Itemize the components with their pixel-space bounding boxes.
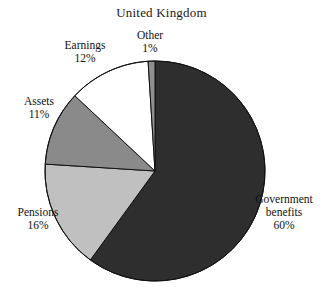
pie-label-pensions: Pensions 16% — [2, 206, 74, 232]
pie-chart-figure: United Kingdom Other 1% Earnings 12% Ass… — [0, 0, 323, 294]
pie-label-earnings: Earnings 12% — [49, 39, 121, 65]
pie-label-assets-value: 11% — [8, 108, 70, 121]
pie-slice-group — [45, 61, 265, 281]
pie-label-other: Other 1% — [122, 29, 178, 55]
pie-label-government-benefits-name-line2: benefits — [248, 206, 320, 219]
pie-label-earnings-name: Earnings — [49, 39, 121, 52]
pie-label-earnings-value: 12% — [49, 52, 121, 65]
pie-label-assets: Assets 11% — [8, 95, 70, 121]
pie-label-government-benefits: Government benefits 60% — [248, 193, 320, 232]
pie-label-pensions-value: 16% — [2, 219, 74, 232]
pie-label-government-benefits-value: 60% — [248, 219, 320, 232]
pie-label-government-benefits-name-line1: Government — [248, 193, 320, 206]
pie-label-other-value: 1% — [122, 42, 178, 55]
pie-label-assets-name: Assets — [8, 95, 70, 108]
pie-label-pensions-name: Pensions — [2, 206, 74, 219]
pie-label-other-name: Other — [122, 29, 178, 42]
